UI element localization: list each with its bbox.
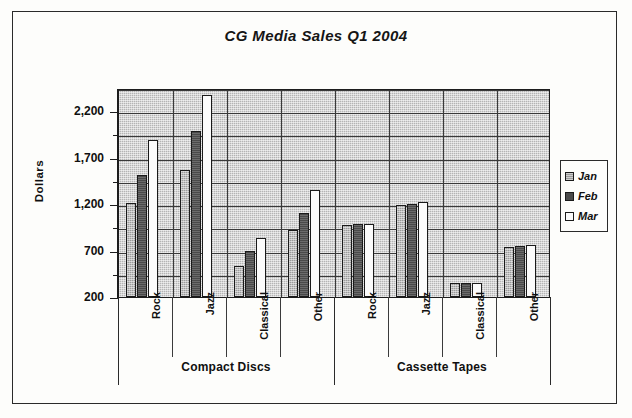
bar-jan-4 <box>342 225 353 298</box>
y-tick-minor <box>113 182 118 183</box>
bar-jan-3 <box>288 230 299 297</box>
y-axis-line <box>117 89 118 298</box>
bar-jan-6 <box>450 283 461 297</box>
grid-line <box>119 113 549 114</box>
category-separator <box>497 90 498 297</box>
category-separator <box>335 90 336 297</box>
bar-mar-5 <box>418 202 429 297</box>
legend-swatch-jan <box>565 172 574 181</box>
category-separator <box>281 90 282 297</box>
y-tick-mark <box>110 252 118 253</box>
bar-feb-6 <box>461 283 472 297</box>
category-separator <box>227 90 228 297</box>
y-tick-label: 700 <box>46 244 104 258</box>
category-tick <box>280 297 281 357</box>
y-tick-mark <box>110 205 118 206</box>
bar-feb-5 <box>407 204 418 297</box>
group-label-1: Cassette Tapes <box>334 360 550 374</box>
bar-feb-1 <box>191 131 202 297</box>
bar-feb-4 <box>353 224 364 297</box>
category-label-4: Rock <box>366 292 380 352</box>
bar-feb-7 <box>515 246 526 297</box>
legend-item-feb[interactable]: Feb <box>565 186 603 206</box>
category-label-3: Other <box>312 292 326 352</box>
category-tick <box>388 297 389 357</box>
category-separator <box>389 90 390 297</box>
grid-line <box>119 136 549 137</box>
y-tick-label: 1,700 <box>46 151 104 165</box>
y-tick-minor <box>113 135 118 136</box>
y-tick-minor <box>113 275 118 276</box>
bar-mar-3 <box>310 190 321 297</box>
category-separator <box>443 90 444 297</box>
category-label-6: Classical <box>474 292 488 352</box>
category-label-1: Jazz <box>204 292 218 352</box>
bar-feb-2 <box>245 251 256 297</box>
y-tick-label: 200 <box>46 290 104 304</box>
legend-item-mar[interactable]: Mar <box>565 206 603 226</box>
category-separator <box>173 90 174 297</box>
y-tick-label: 2,200 <box>46 104 104 118</box>
group-separator <box>550 297 551 385</box>
y-tick-minor <box>113 228 118 229</box>
grid-line <box>119 90 549 91</box>
category-tick <box>226 297 227 357</box>
bar-feb-3 <box>299 213 310 298</box>
bar-jan-7 <box>504 247 515 297</box>
bar-jan-2 <box>234 266 245 297</box>
bar-feb-0 <box>137 175 148 297</box>
legend-swatch-feb <box>565 192 574 201</box>
legend-label-feb: Feb <box>578 190 598 202</box>
y-axis-title: Dollars <box>33 136 45 226</box>
chart-title: CG Media Sales Q1 2004 <box>0 27 632 44</box>
legend: Jan Feb Mar <box>560 160 608 232</box>
bar-mar-4 <box>364 224 375 297</box>
y-tick-mark <box>110 298 118 299</box>
plot-area <box>118 89 550 298</box>
bar-mar-2 <box>256 238 267 297</box>
bar-mar-0 <box>148 140 159 297</box>
category-label-7: Other <box>528 292 542 352</box>
category-tick <box>442 297 443 357</box>
bar-mar-7 <box>526 245 537 297</box>
category-label-5: Jazz <box>420 292 434 352</box>
y-tick-label: 1,200 <box>46 197 104 211</box>
category-tick <box>496 297 497 357</box>
legend-swatch-mar <box>565 212 574 221</box>
legend-item-jan[interactable]: Jan <box>565 166 603 186</box>
bar-jan-0 <box>126 203 137 297</box>
category-tick <box>172 297 173 357</box>
chart-figure: CG Media Sales Q1 2004 Dollars 2007001,2… <box>0 0 632 418</box>
y-tick-mark <box>110 159 118 160</box>
grid-line <box>119 160 549 161</box>
y-tick-mark <box>110 112 118 113</box>
legend-label-mar: Mar <box>578 210 598 222</box>
bar-jan-1 <box>180 170 191 297</box>
bar-jan-5 <box>396 205 407 297</box>
group-label-0: Compact Discs <box>118 360 334 374</box>
category-label-2: Classical <box>258 292 272 352</box>
bar-mar-1 <box>202 95 213 298</box>
legend-label-jan: Jan <box>578 170 597 182</box>
category-label-0: Rock <box>150 292 164 352</box>
